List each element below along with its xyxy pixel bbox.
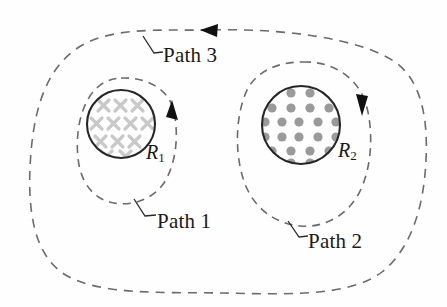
diagram-canvas — [0, 0, 447, 307]
path-3-arrowhead — [200, 24, 218, 37]
region-1-radius-subscript: 1 — [158, 150, 165, 165]
region-1-crosses — [91, 100, 153, 162]
path-3-loop — [30, 24, 427, 294]
region-2-radius-subscript: 2 — [350, 148, 357, 163]
path-1-arrowhead — [166, 100, 178, 120]
path-3-label: Path 3 — [163, 45, 217, 66]
region-2-dots — [260, 88, 340, 167]
physics-diagram-ampere-loops: Path 3 Path 1 Path 2 R1 R2 — [0, 0, 447, 307]
path-3-leader — [143, 36, 163, 53]
path-1-label: Path 1 — [157, 211, 211, 232]
path-2-arrowhead — [356, 94, 368, 116]
path-3-curve — [30, 30, 427, 294]
region-2-radius-label: R2 — [338, 140, 357, 160]
region-2-radius-letter: R — [338, 139, 350, 161]
region-1-radius-label: R1 — [146, 142, 165, 162]
region-1-radius-letter: R — [146, 141, 158, 163]
path-2-leader — [288, 221, 308, 237]
path-2-label: Path 2 — [308, 231, 362, 252]
